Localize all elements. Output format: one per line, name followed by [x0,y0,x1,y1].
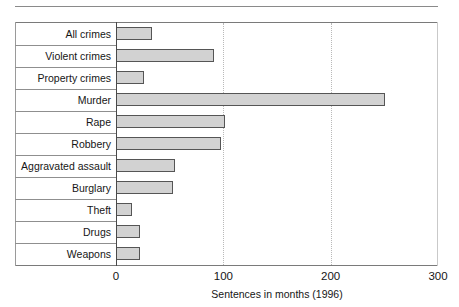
bar [117,203,132,216]
plot-area-frame: All crimesViolent crimesProperty crimesM… [15,22,438,266]
category-label: Weapons [15,243,111,265]
bar-row: Robbery [15,133,438,155]
bar-row: All crimes [15,23,438,45]
x-tick-label-100: 100 [193,270,253,282]
bar [117,137,221,150]
bar-row: Drugs [15,221,438,243]
bar [117,159,175,172]
bar-row: Property crimes [15,67,438,89]
bar [117,93,385,106]
bar [117,225,140,238]
category-label: Burglary [15,177,111,199]
category-label: Robbery [15,133,111,155]
bar [117,115,225,128]
category-label: Rape [15,111,111,133]
category-label: Violent crimes [15,45,111,67]
x-tick-label-200: 200 [301,270,361,282]
horizontal-bar-chart: All crimesViolent crimesProperty crimesM… [0,0,459,307]
category-label: Theft [15,199,111,221]
x-tick-label-300: 300 [408,270,459,282]
bar [117,181,173,194]
bar-row: Violent crimes [15,45,438,67]
category-label: Aggravated assault [15,155,111,177]
bar-row: Rape [15,111,438,133]
top-divider-rule [15,6,438,7]
bar [117,71,144,84]
x-tick-label-0: 0 [86,270,146,282]
bar [117,27,152,40]
bar-rows: All crimesViolent crimesProperty crimesM… [15,23,438,265]
bar-row: Burglary [15,177,438,199]
x-axis-tick-labels: 0100200300 [0,270,459,286]
bar-row: Theft [15,199,438,221]
bar [117,49,214,62]
category-label: Drugs [15,221,111,243]
category-label: Property crimes [15,67,111,89]
category-label: Murder [15,89,111,111]
frame-bottom-border [15,265,438,266]
x-axis-title: Sentences in months (1996) [116,288,438,300]
bar-row: Weapons [15,243,438,265]
bar-row: Aggravated assault [15,155,438,177]
bar-row: Murder [15,89,438,111]
bar [117,247,140,260]
category-label: All crimes [15,23,111,45]
